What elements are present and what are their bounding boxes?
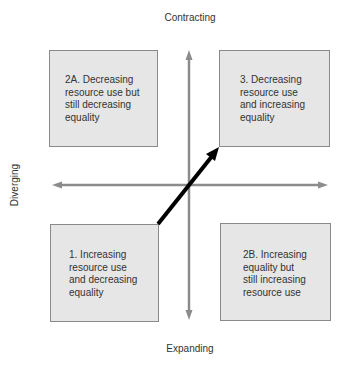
axes-and-arrow <box>0 0 347 371</box>
